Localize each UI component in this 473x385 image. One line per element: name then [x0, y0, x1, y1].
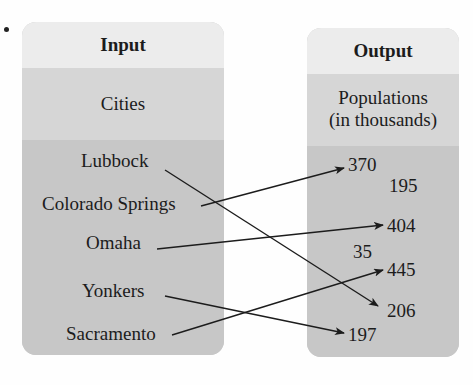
mapping-arrows — [0, 0, 473, 385]
arrow-sacramento-445 — [172, 270, 383, 335]
arrow-colorado-springs-370 — [201, 168, 344, 206]
arrow-yonkers-197 — [165, 296, 344, 333]
arrow-omaha-404 — [157, 225, 383, 249]
arrow-lubbock-206 — [165, 170, 378, 306]
